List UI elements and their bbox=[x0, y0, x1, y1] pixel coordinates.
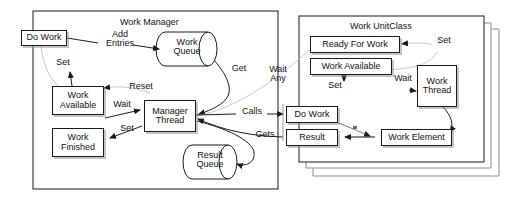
label-add-entries: Add Entries bbox=[100, 30, 140, 49]
node-manager-thread[interactable]: Manager Thread bbox=[144, 100, 196, 132]
node-work-queue-label: Work Queue bbox=[166, 38, 208, 57]
node-result[interactable]: Result bbox=[286, 129, 338, 146]
label-set-left-bottom: Set bbox=[116, 124, 138, 133]
node-do-work-manager[interactable]: Do Work bbox=[21, 30, 67, 46]
edge-dowork-workelement-tick bbox=[353, 126, 357, 129]
node-work-finished[interactable]: Work Finished bbox=[52, 128, 104, 157]
label-set-left-top: Set bbox=[51, 58, 75, 67]
label-wait-right: Wait bbox=[390, 74, 416, 83]
node-ready-for-work[interactable]: Ready For Work bbox=[310, 36, 400, 53]
label-gets: Gets bbox=[252, 130, 278, 139]
label-reset: Reset bbox=[125, 82, 157, 91]
label-get: Get bbox=[228, 64, 250, 73]
node-do-work-unit[interactable]: Do Work bbox=[286, 106, 338, 123]
label-wait-any: Wait Any bbox=[261, 65, 295, 84]
node-work-thread[interactable]: Work Thread bbox=[417, 65, 457, 107]
label-calls: Calls bbox=[238, 107, 266, 116]
work-unitclass-title: Work UnitClass bbox=[350, 21, 412, 31]
node-work-available-manager[interactable]: Work Available bbox=[52, 86, 104, 115]
work-manager-title: Work Manager bbox=[120, 17, 179, 27]
label-set-right-mid: Set bbox=[324, 81, 346, 90]
node-work-element[interactable]: Work Element bbox=[381, 129, 452, 146]
node-result-queue-label: Result Queue bbox=[192, 151, 228, 170]
label-wait-left: Wait bbox=[109, 100, 135, 109]
node-work-available-unit[interactable]: Work Available bbox=[310, 58, 392, 75]
label-set-right-top: Set bbox=[433, 36, 455, 45]
diagram-canvas: Work Manager Work UnitClass Do Work Work… bbox=[0, 0, 512, 201]
